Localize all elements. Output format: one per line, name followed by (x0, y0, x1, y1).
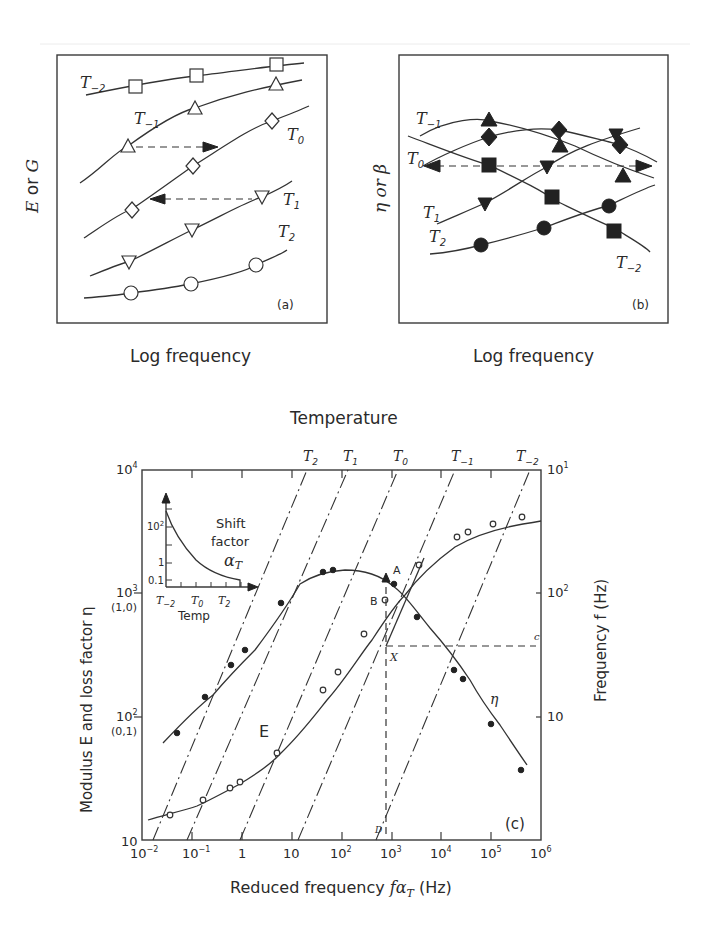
diamond-marker-icon (186, 158, 200, 174)
filled-square-marker-icon (545, 190, 559, 204)
y-right-tick-label: 10 (547, 709, 564, 724)
isotherm-t0 (240, 470, 398, 840)
top-label-t2: T2 (303, 448, 318, 467)
square-marker-icon (129, 80, 142, 93)
inset-ytick: 102 (147, 520, 164, 532)
E-markers (167, 514, 525, 818)
filled-triangle-down-marker-icon (540, 161, 554, 174)
figure-canvas: T−2 T−1 T0 T1 T2 (a) E or G Log frequenc… (0, 0, 703, 943)
isotherm-tm2 (376, 470, 530, 840)
arrowhead-left-icon (424, 160, 440, 172)
y-tick-label: 10 (121, 834, 138, 849)
x-tick-label: 105 (480, 845, 502, 861)
inset-xtick: T2 (218, 594, 230, 609)
y-right-tick-labels: 101 102 10 (547, 461, 569, 724)
x-ticks (134, 470, 541, 840)
panel-c-xlabel: Reduced frequency fαT (Hz) (230, 878, 452, 900)
filled-square-marker-icon (482, 158, 496, 172)
label-a-tm1: T−1 (134, 109, 159, 130)
label-a-t1: T1 (283, 190, 300, 211)
circle-marker-icon (249, 258, 263, 272)
triangle-down-marker-icon (255, 191, 269, 204)
label-a-t0: T0 (287, 125, 304, 146)
curve-label-eta: η (490, 691, 499, 707)
inset-xlabel: Temp (177, 609, 210, 623)
top-label-tm1: T−1 (451, 448, 474, 467)
arrowhead-right-icon (636, 160, 652, 172)
y-right-tick-label: 102 (547, 584, 569, 600)
top-temp-labels: T2 T1 T0 T−1 T−2 (303, 448, 539, 467)
triangle-up-marker-icon (121, 139, 135, 152)
x-tick-label: 10 (283, 846, 300, 861)
filled-triangle-down-marker-icon (478, 198, 492, 211)
y-tick-label: 104 (116, 461, 138, 477)
point-label-b: B (370, 595, 378, 608)
top-label-tm2: T−2 (516, 448, 539, 467)
x-tick-label: 104 (430, 845, 452, 861)
label-b-t0: T0 (407, 149, 424, 170)
y-right-tick-label: 101 (547, 461, 569, 477)
panel-c-ylabel-left: Modulus E and loss factor η (78, 606, 96, 813)
point-label-c: c (534, 631, 540, 642)
point-label-a: A (393, 564, 401, 577)
inset-title-line1: Shift (216, 516, 246, 531)
inset-ytick: 0.1 (148, 575, 164, 586)
panel-c-label: (c) (505, 815, 525, 833)
x-tick-label: 10−1 (182, 845, 210, 861)
diamond-marker-icon (125, 202, 139, 218)
square-marker-icon (270, 58, 283, 71)
panel-a-xlabel: Log frequency (130, 346, 251, 366)
triangle-up-marker-icon (188, 101, 202, 114)
panel-a-ylabel: E or G (22, 159, 42, 214)
x-tick-label: 103 (380, 845, 402, 861)
inset-arrow-up-icon (162, 493, 170, 503)
filled-square-marker-icon (607, 224, 621, 238)
isotherm-lines (153, 470, 530, 840)
square-marker-icon (190, 69, 203, 82)
panel-a-label: (a) (277, 298, 294, 312)
curve-label-e: E (259, 722, 269, 741)
panel-c-title: Temperature (289, 408, 398, 428)
panel-b-xlabel: Log frequency (473, 346, 594, 366)
inset-title-line2: factor (211, 534, 250, 549)
point-label-d: D (374, 825, 382, 835)
label-b-tm2: T−2 (616, 253, 641, 274)
isotherm-t1 (187, 470, 348, 840)
isotherm-through-x (386, 558, 424, 646)
curve-b-t2 (430, 185, 655, 254)
x-tick-label: 102 (330, 845, 352, 861)
panel-b-label: (b) (632, 298, 649, 312)
panel-b: T−1 T0 T1 T2 T−2 (b) η or β Log frequenc… (370, 55, 668, 366)
eta-markers (174, 567, 524, 773)
inset-xtick: T0 (191, 594, 203, 609)
x-tick-label: 1 (238, 846, 246, 861)
x-tick-label: 106 (530, 845, 552, 861)
x-tick-labels: 10−2 10−1 1 10 102 103 104 105 106 (130, 845, 552, 861)
diamond-marker-icon (265, 113, 279, 129)
inset-ytick: 1 (158, 557, 164, 568)
curve-a-t2 (84, 250, 287, 298)
filled-triangle-up-marker-icon (552, 138, 568, 152)
panel-b-frame (399, 55, 668, 323)
y-tick-paren: (0,1) (111, 725, 137, 738)
top-label-t1: T1 (343, 448, 358, 467)
panel-c: Temperature 10−2 10−1 1 10 102 103 104 (78, 408, 610, 900)
y-tick-label: 103 (116, 584, 138, 600)
filled-triangle-up-marker-icon (481, 112, 497, 126)
arrowhead-right-icon (203, 142, 218, 152)
filled-triangle-up-marker-icon (615, 168, 631, 182)
inset-shift-factor: 102 1 0.1 T−2 T0 T2 Temp Shift factor αT (147, 493, 258, 623)
filled-diamond-marker-icon (481, 128, 497, 146)
panel-c-frame (142, 470, 541, 840)
filled-diamond-marker-icon (551, 121, 567, 139)
filled-circle-marker-icon (474, 238, 488, 252)
panel-a: T−2 T−1 T0 T1 T2 (a) E or G Log frequenc… (22, 55, 327, 366)
circle-marker-icon (124, 286, 138, 300)
triangle-up-marker-icon (269, 77, 283, 90)
label-a-t2: T2 (278, 222, 295, 243)
curve-E (148, 521, 541, 820)
panel-b-ylabel: η or β (370, 164, 390, 213)
filled-circle-marker-icon (537, 221, 551, 235)
label-a-tm2: T−2 (80, 73, 105, 94)
point-label-x: X (389, 651, 399, 664)
